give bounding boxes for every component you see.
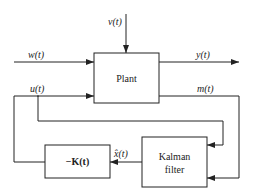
block-diagram: v(t) w(t) y(t) u(t) m(t) x̂(t) Plant −K(… [0,0,253,196]
kalman-label-2: filter [165,164,185,175]
plant-label: Plant [116,73,137,84]
m-label: m(t) [197,83,214,95]
u-feedback-line [14,96,94,162]
y-label: y(t) [195,49,211,61]
xhat-label: x̂(t) [113,148,129,160]
kalman-label-1: Kalman [159,151,191,162]
kalman-filter-block [142,137,207,187]
w-label: w(t) [28,49,45,61]
v-label: v(t) [108,16,123,28]
gain-label: −K(t) [66,156,89,168]
u-label: u(t) [30,83,45,95]
